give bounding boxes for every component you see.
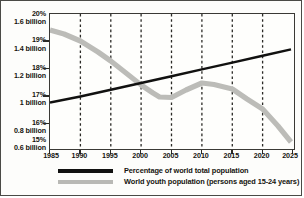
x-tick-2005: 2005: [163, 151, 179, 160]
chart-figure: 20% 1.6 billion 19% 1.4 billion 18% 1.2 …: [0, 0, 302, 196]
y-axis-labels: 20% 1.6 billion 19% 1.4 billion 18% 1.2 …: [1, 1, 49, 151]
y-tick-billion: 1 billion: [2, 99, 46, 107]
gridlines: [80, 14, 262, 148]
x-tick-2015: 2015: [224, 151, 240, 160]
y-tick-3: 17% 1 billion: [2, 91, 46, 107]
series-percentage-line: [50, 49, 291, 102]
y-tick-billion: 0.8 billion: [2, 127, 46, 135]
y-tick-billion: 1.2 billion: [2, 72, 46, 80]
legend-item-percentage: Percentage of world total population: [1, 166, 303, 177]
x-tick-1985: 1985: [43, 151, 59, 160]
x-tick-1990: 1990: [72, 151, 88, 160]
y-tick-billion: 1.4 billion: [2, 45, 46, 53]
y-tick-5: 15% 0.6 billion: [2, 136, 46, 152]
y-tick-1: 19% 1.4 billion: [2, 36, 46, 52]
x-tick-1995: 1995: [102, 151, 118, 160]
x-tick-2020: 2020: [254, 151, 270, 160]
y-tick-0: 20% 1.6 billion: [2, 10, 46, 26]
x-tick-2025: 2025: [282, 151, 298, 160]
series-youth-population-line: [50, 30, 291, 142]
x-axis-labels: 1985 1990 1995 2000 2005 2010 2015 2020 …: [1, 151, 303, 165]
y-tick-billion: 1.6 billion: [2, 18, 46, 26]
legend-label-percentage: Percentage of world total population: [124, 166, 249, 175]
chart-canvas: [50, 14, 293, 148]
y-tick-4: 16% 0.8 billion: [2, 119, 46, 135]
legend-swatch-black-line: [58, 169, 113, 173]
x-tick-2000: 2000: [132, 151, 148, 160]
legend-item-youth-population: World youth population (persons aged 15-…: [1, 177, 303, 188]
plot-area: [49, 13, 295, 150]
chart-legend: Percentage of world total population Wor…: [1, 166, 303, 188]
legend-label-youth-population: World youth population (persons aged 15-…: [124, 177, 299, 186]
x-tick-2010: 2010: [193, 151, 209, 160]
legend-swatch-grey-line: [58, 180, 113, 184]
y-tick-2: 18% 1.2 billion: [2, 64, 46, 80]
